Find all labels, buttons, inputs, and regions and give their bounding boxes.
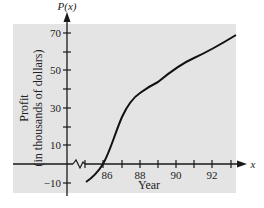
y-axis-title-line2: (in thousands of dollars) — [31, 50, 45, 167]
x-tick-label-86: 86 — [102, 169, 114, 181]
y-tick-label-10: 10 — [50, 139, 62, 151]
x-axis-title: Year — [138, 178, 160, 192]
profit-chart: 70 50 30 10 −10 P(x) Profit (in thousand… — [0, 0, 264, 208]
y-axis-title-line1: Profit — [17, 94, 31, 122]
y-axis-variable: P(x) — [57, 0, 77, 13]
y-axis-arrow-icon — [64, 12, 71, 22]
y-tick-label-50: 50 — [50, 64, 62, 76]
x-tick-label-92: 92 — [207, 169, 218, 181]
x-axis-arrow-icon — [237, 161, 247, 168]
y-tick-label-neg10: −10 — [44, 177, 62, 189]
y-tick-label-70: 70 — [50, 27, 62, 39]
x-tick-label-90: 90 — [171, 169, 183, 181]
y-tick-label-30: 30 — [50, 102, 62, 114]
x-axis-variable: x — [250, 158, 256, 170]
plot-background — [13, 24, 236, 193]
